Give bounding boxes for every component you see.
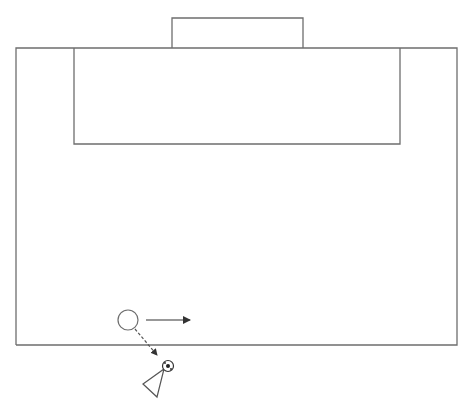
goal xyxy=(172,18,303,48)
ball-icon xyxy=(163,361,174,372)
drill-diagram xyxy=(0,0,472,412)
player-icon xyxy=(118,310,138,330)
pitch-boundary xyxy=(16,48,457,345)
pass-arrow xyxy=(135,329,157,355)
penalty-area xyxy=(74,48,400,144)
cone-icon xyxy=(143,369,164,397)
